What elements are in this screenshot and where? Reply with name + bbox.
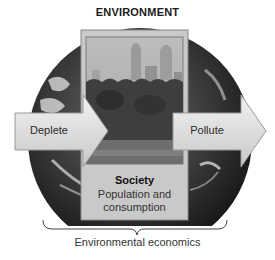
society-subtitle: Population and consumption bbox=[81, 188, 188, 214]
city-park-photo bbox=[86, 37, 183, 164]
environmental-economics-caption: Environmental economics bbox=[0, 236, 275, 248]
deplete-label: Deplete bbox=[15, 124, 83, 136]
pollute-label: Pollute bbox=[173, 124, 241, 136]
society-title: Society bbox=[81, 174, 188, 186]
